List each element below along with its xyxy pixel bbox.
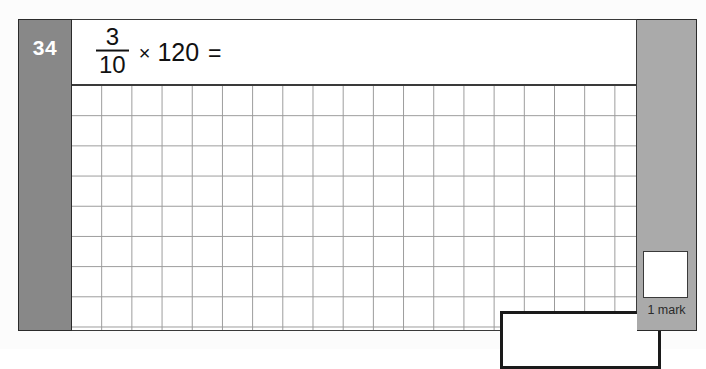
question-number-band: 34	[18, 19, 72, 331]
math-expression: 3 10 × 120 =	[96, 26, 222, 79]
operand-value: 120	[157, 38, 199, 67]
mark-award-box[interactable]	[643, 251, 688, 298]
question-number: 34	[19, 36, 71, 60]
fraction-numerator: 3	[102, 25, 123, 50]
fraction-three-tenths: 3 10	[96, 25, 129, 78]
expression-row: 3 10 × 120 =	[72, 19, 637, 85]
equals-icon: =	[208, 40, 221, 67]
question-panel: 34 3 10 × 120 = 1 mark	[18, 19, 697, 332]
fraction-denominator: 10	[96, 52, 129, 77]
multiply-icon: ×	[139, 42, 151, 65]
working-out-grid[interactable]	[72, 85, 637, 331]
mark-label: 1 mark	[637, 303, 696, 317]
mark-band: 1 mark	[637, 19, 697, 331]
